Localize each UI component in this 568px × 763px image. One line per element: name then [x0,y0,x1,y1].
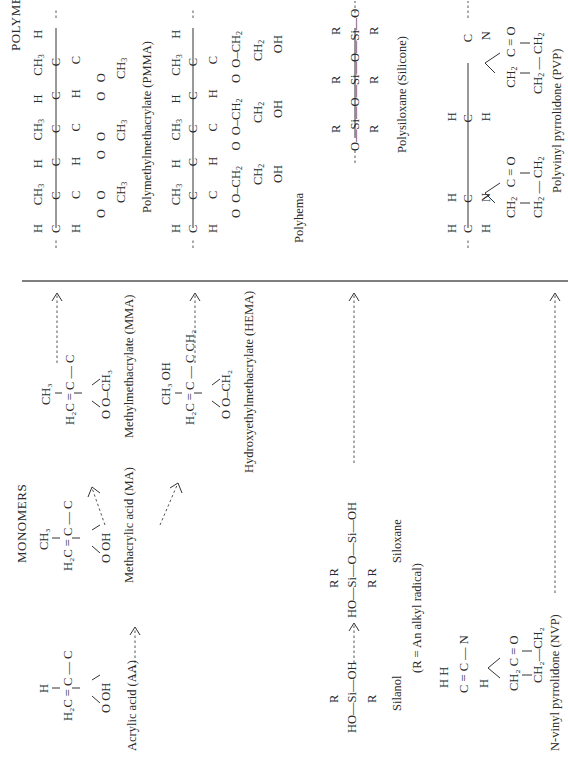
nvp-label: N-vinyl pyrrolidone (NVP) [548,614,563,751]
ma-backbone: H₂C = C — C [62,501,75,571]
hema-backbone: H₂C = C — C CH₂ [184,330,197,425]
silanol-formula: HO—Si—OH [346,661,359,733]
polyhema-ch2-row: CH2 CH2 CH2 [252,40,266,185]
pvp-bottom-row: H N H N [480,31,493,233]
ma-ch3: CH₃ [38,528,51,550]
mma-backbone: H₂C = C — C [64,355,77,425]
hema-top: CH₃ OH [160,362,173,405]
pmma-top-row: H CH3 H CH3 H CH3 H [32,30,46,233]
nvp-ring-1: CH₂ C = O [508,635,521,691]
pvp-ring-row-2: CH2 — CH2 CH2 — CH2 [532,33,546,219]
aa-backbone: H₂C = C — C [62,651,75,721]
polyhema-label: Polyhema [292,193,307,243]
silicone-label: Polysiloxane (Silicone) [395,36,410,153]
hema-ester: O O–CH₂ [220,370,233,419]
nvp-h-top: H H [438,667,451,688]
mma-ester: O O–CH₃ [100,370,113,419]
siloxane-r-top: R R [328,568,341,588]
ma-oxygens: O OH [100,533,113,563]
silanol-label: Silanol [390,676,405,711]
aa-label: Acrylic acid (AA) [125,660,140,751]
hema-label: Hydroxyethylmethacrylate (HEMA) [242,291,257,473]
polyhema-top-row: H CH3 H CH3 H CH3 H [170,30,184,233]
siloxane-formula: HO—Si—O—Si—OH [346,502,359,618]
pvp-top-row: H H H [446,112,459,233]
pvp-label: Polyvinyl pyrrolidone (PVP) [550,49,565,193]
silanol-r-bottom: R [366,695,379,703]
pmma-chain-row: C C C C C C [50,58,63,233]
polyhema-chain-row: C C C C C C [187,58,200,233]
mma-ch3: CH₃ [40,383,53,405]
polyhema-oh-row: OH OH OH [272,35,285,183]
silicone-r-top: R R R [330,27,343,133]
mma-label: Methylmethacrylate (MMA) [122,295,137,438]
silanol-r-top: R [328,695,341,703]
nvp-vinyl: C = C — N [458,635,471,693]
silicone-r-bottom: R R R [368,27,381,133]
ma-label: Methacrylic acid (MA) [122,467,137,583]
polyhema-bottom-row: H C H C H C [207,56,220,233]
siloxane-r-bottom: R R [366,568,379,588]
alkyl-note: (R = An alkyl radical) [410,563,425,673]
aa-h: H [38,684,51,693]
nvp-h-bottom: H [478,679,491,688]
pvp-ring-row-1: CH2 C = O CH2 C = O [505,26,519,218]
polyhema-ester-row: O O–CH2 O O–CH2 O O–CH2 [230,31,244,218]
aa-oxygens: O OH [100,683,113,713]
diagram-canvas: MONOMERS POLYMERS [0,0,568,763]
nvp-ring-2: CH₂—CH₂ [532,627,545,683]
silicone-chain: O—Si—O—Si—O—Si—O [349,9,362,151]
pmma-methyl-row: CH3 CH3 CH3 [115,58,129,203]
siloxane-label: Siloxane [390,519,405,563]
pvp-chain-row: C C C C [462,34,475,233]
pmma-label: Polymethylmethacrylate (PMMA) [140,41,155,213]
pmma-ester-row: O O O O O O [95,73,108,218]
pmma-bottom-row: H C H C H C [70,56,83,233]
